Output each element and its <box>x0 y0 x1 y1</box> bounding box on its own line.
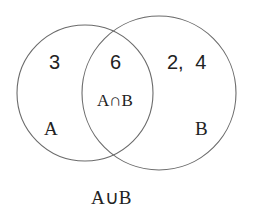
set-a-only-elements: 3 <box>49 52 60 72</box>
set-b-only-elements: 2, 4 <box>167 52 206 72</box>
set-b-label: B <box>195 119 208 138</box>
intersection-label: A∩B <box>97 92 133 109</box>
venn-diagram: 3 6 2, 4 A∩B A B A∪B <box>0 0 254 206</box>
set-a-label: A <box>44 119 58 138</box>
intersection-elements: 6 <box>110 52 121 72</box>
union-label: A∪B <box>91 188 131 206</box>
